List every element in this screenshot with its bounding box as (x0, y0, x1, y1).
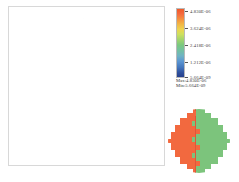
figure-root: 4.830E-06 3.624E-06 2.418E-06 1.212E-06 … (0, 0, 239, 182)
tick-dash-icon (185, 28, 188, 29)
material-domain-panel (163, 104, 235, 178)
colorbar-tick: 3.624E-06 (185, 25, 211, 32)
max-value: 4.830E-06 (186, 78, 206, 83)
colorbar-legend: 4.830E-06 3.624E-06 2.418E-06 1.212E-06 … (176, 8, 236, 94)
main-contour-panel (8, 6, 165, 166)
field-contour-disc (20, 19, 154, 153)
colorbar-tick: 1.212E-06 (185, 59, 211, 66)
min-label: Min: (176, 83, 185, 88)
colorbar-gradient (176, 8, 185, 78)
colorbar-tick-label: 2.418E-06 (190, 43, 211, 48)
colorbar-extremes: Max:4.830E-06 Min:5.664E-09 (176, 78, 236, 89)
min-value: 5.664E-09 (185, 83, 205, 88)
colorbar-tick-label: 3.624E-06 (190, 26, 211, 31)
colorbar-tick-label: 4.830E-06 (190, 9, 211, 14)
tick-dash-icon (185, 45, 188, 46)
material-stairstep-mask (166, 107, 232, 175)
colorbar-tick: 4.830E-06 (185, 8, 211, 15)
colorbar-tick-list: 4.830E-06 3.624E-06 2.418E-06 1.212E-06 … (185, 8, 236, 78)
colorbar-tick-label: 1.212E-06 (190, 60, 211, 65)
main-plot-area (9, 7, 164, 165)
max-label: Max: (176, 78, 186, 83)
tick-dash-icon (185, 62, 188, 63)
tick-dash-icon (185, 11, 188, 12)
min-value-line: Min:5.664E-09 (176, 83, 236, 88)
colorbar-tick: 2.418E-06 (185, 42, 211, 49)
